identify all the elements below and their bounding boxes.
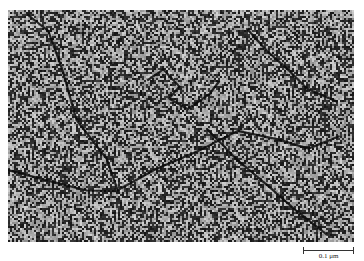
- micrograph-image: [8, 10, 354, 242]
- scale-bar-line: [303, 250, 354, 251]
- scale-bar: 0.1 μm: [303, 246, 354, 260]
- scale-bar-label: 0.1 μm: [303, 252, 354, 260]
- micrograph-canvas: [8, 10, 354, 242]
